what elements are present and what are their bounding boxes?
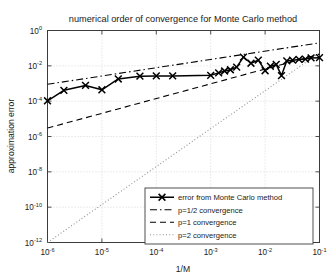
legend-label: p=1 convergence — [178, 218, 236, 227]
y-axis-label: approximation error — [6, 99, 16, 174]
legend[interactable]: error from Monte Carlo methodp=1/2 conve… — [145, 188, 313, 244]
legend-label: p=1/2 convergence — [178, 206, 243, 215]
legend-label: error from Monte Carlo method — [178, 193, 282, 202]
figure-container: numerical order of convergence for Monte… — [0, 0, 336, 279]
legend-label: p=2 convergence — [178, 231, 236, 240]
chart-title: numerical order of convergence for Monte… — [69, 14, 297, 24]
convergence-chart: numerical order of convergence for Monte… — [0, 0, 336, 279]
x-axis-label: 1/M — [176, 264, 190, 274]
